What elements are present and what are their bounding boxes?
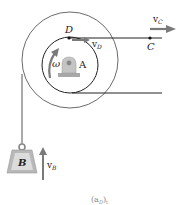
pulley-diagram: D C A B ω vD vC vB (aD)t [0, 0, 190, 205]
label-vB: vB [46, 160, 57, 171]
pin-A [67, 61, 72, 66]
label-D: D [64, 24, 73, 35]
caption: (aD)t [91, 195, 108, 205]
point-C [148, 36, 151, 39]
vB-arrow-head [39, 147, 47, 155]
mount-base [58, 73, 80, 77]
vC-arrow-head [166, 25, 176, 33]
label-B: B [17, 157, 26, 168]
label-C: C [147, 41, 155, 52]
weight-hook [19, 144, 25, 150]
label-A: A [78, 59, 87, 70]
label-vD: vD [91, 39, 102, 50]
label-vC: vC [152, 14, 163, 25]
label-omega: ω [52, 58, 60, 69]
point-D [67, 36, 70, 39]
